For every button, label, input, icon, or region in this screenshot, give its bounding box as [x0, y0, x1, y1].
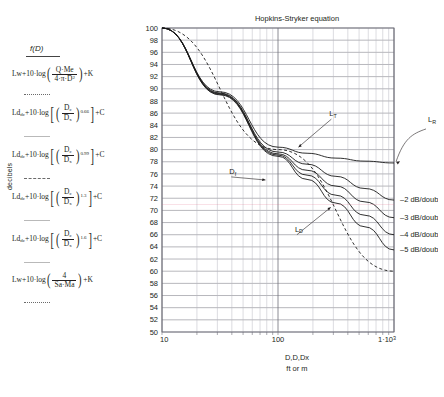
bracket-close-icon: ] — [88, 232, 91, 247]
svg-text:–2 dB/doubling: –2 dB/doubling — [400, 195, 438, 204]
svg-text:72: 72 — [150, 194, 158, 203]
legend-separator-dashed-1 — [24, 178, 50, 179]
fraction: DcDx — [62, 230, 74, 249]
fraction-denominator: Dx — [62, 240, 74, 249]
svg-text:100: 100 — [272, 335, 285, 344]
bracket-open-icon: [ — [50, 106, 53, 121]
paren-open-icon: ( — [56, 191, 60, 205]
svg-text:70: 70 — [150, 206, 158, 215]
paren-close-icon: ) — [79, 273, 83, 287]
legend-separator-solid-2 — [24, 220, 50, 221]
eq-prefix: Lw+10·log — [12, 275, 46, 284]
svg-text:74: 74 — [150, 182, 158, 191]
svg-text:10: 10 — [160, 335, 168, 344]
paren-open-icon: ( — [56, 149, 60, 163]
bracket-open-icon: [ — [50, 148, 53, 163]
fraction-denominator: Dx — [62, 156, 74, 165]
legend-separator-dotted-1 — [24, 94, 50, 95]
eq-suffix: +K — [84, 69, 94, 78]
chart-svg: 1009896949290888684828078767472706866646… — [130, 14, 438, 382]
svg-text:92: 92 — [150, 72, 158, 81]
eq-suffix: +K — [83, 275, 93, 284]
legend-separator-dotted-2 — [24, 302, 50, 303]
eq-exponent: 0.66 — [80, 109, 89, 114]
chart-page: decibels f(D) Lw+10·log(Q·Me4·π·D2)+K Ld… — [0, 0, 444, 397]
fraction: Q·Me4·π·D2 — [52, 66, 76, 82]
eq-prefix: Lddc+10·log — [12, 150, 49, 159]
svg-text:58: 58 — [150, 279, 158, 288]
legend-equation-exp-066: Lddc+10·log[(DcDx)0.66]+C — [12, 104, 105, 123]
eq-exponent: 1.3 — [80, 193, 86, 198]
eq-prefix: Lddc+10·log — [12, 108, 49, 117]
annotation-layer: LTDfLDLR–2 dB/doubling–3 dB/doubling–4 d… — [229, 109, 438, 254]
paren-open-icon: ( — [56, 107, 60, 121]
svg-text:66: 66 — [150, 230, 158, 239]
eq-suffix: +C — [95, 150, 104, 159]
svg-text:–4 dB/doubling: –4 dB/doubling — [400, 230, 438, 239]
eq-suffix: +C — [95, 108, 104, 117]
legend-header: f(D) — [30, 44, 43, 53]
bracket-close-icon: ] — [90, 148, 93, 163]
legend-equation-reverberant: Lw+10·log(4Sa·Ma)+K — [12, 272, 93, 288]
tick-label-layer: 1009896949290888684828078767472706866646… — [145, 24, 396, 344]
legend-separator-solid-3 — [24, 262, 50, 263]
paren-open-icon: ( — [47, 67, 51, 81]
svg-text:LT: LT — [329, 109, 337, 119]
x-axis-title: D,D,Dx ft or m — [192, 352, 402, 374]
svg-text:94: 94 — [150, 60, 158, 69]
paren-close-icon: ) — [76, 107, 80, 121]
bracket-close-icon: ] — [90, 106, 93, 121]
svg-text:78: 78 — [150, 157, 158, 166]
paren-close-icon: ) — [76, 149, 80, 163]
svg-text:–3 dB/doubling: –3 dB/doubling — [400, 213, 438, 222]
fraction: DcDx — [62, 104, 74, 123]
svg-text:Df: Df — [229, 167, 236, 177]
svg-text:62: 62 — [150, 255, 158, 264]
fraction-denominator: Dx — [62, 114, 74, 123]
svg-text:1·103: 1·103 — [378, 335, 396, 344]
paren-open-icon: ( — [47, 273, 51, 287]
legend-equation-exp-099: Lddc+10·log[(DcDx)0.99]+C — [12, 146, 105, 165]
chart-area: Hopkins-Stryker equation 100989694929088… — [130, 14, 438, 382]
svg-text:98: 98 — [150, 36, 158, 45]
paren-close-icon: ) — [76, 233, 80, 247]
svg-text:90: 90 — [150, 84, 158, 93]
svg-text:LR: LR — [428, 115, 436, 125]
svg-text:100: 100 — [145, 24, 158, 33]
eq-prefix: Lddc+10·log — [12, 192, 49, 201]
fraction-denominator: Dx — [62, 198, 74, 207]
bracket-open-icon: [ — [50, 190, 53, 205]
svg-text:86: 86 — [150, 109, 158, 118]
paren-open-icon: ( — [56, 233, 60, 247]
svg-text:60: 60 — [150, 267, 158, 276]
eq-prefix: Lw+10·log — [12, 69, 46, 78]
fraction: DcDx — [62, 188, 74, 207]
legend-header-rule — [26, 56, 60, 57]
legend-separator-solid-1 — [24, 136, 50, 137]
svg-text:64: 64 — [150, 242, 158, 251]
svg-text:–5 dB/doubling: –5 dB/doubling — [400, 245, 438, 254]
bracket-open-icon: [ — [50, 232, 53, 247]
svg-text:76: 76 — [150, 170, 158, 179]
x-axis-title-line2: ft or m — [192, 363, 402, 374]
eq-prefix: Lddc+10·log — [12, 234, 49, 243]
svg-text:88: 88 — [150, 97, 158, 106]
svg-text:54: 54 — [150, 303, 158, 312]
fraction-denominator: Sa·Ma — [52, 281, 76, 289]
eq-suffix: +C — [93, 192, 102, 201]
svg-text:84: 84 — [150, 121, 158, 130]
svg-text:68: 68 — [150, 218, 158, 227]
legend-equation-direct-field: Lw+10·log(Q·Me4·π·D2)+K — [12, 66, 93, 82]
paren-close-icon: ) — [79, 67, 83, 81]
svg-text:56: 56 — [150, 291, 158, 300]
fraction-denominator: 4·π·D2 — [52, 75, 76, 83]
eq-exponent: 0.99 — [80, 151, 89, 156]
x-axis-title-line1: D,D,Dx — [192, 352, 402, 363]
equation-legend: decibels f(D) Lw+10·log(Q·Me4·π·D2)+K Ld… — [8, 40, 128, 330]
eq-exponent: 1.6 — [80, 235, 86, 240]
eq-suffix: +C — [93, 234, 102, 243]
svg-text:80: 80 — [150, 145, 158, 154]
svg-text:52: 52 — [150, 315, 158, 324]
paren-close-icon: ) — [76, 191, 80, 205]
fraction: 4Sa·Ma — [52, 272, 76, 288]
